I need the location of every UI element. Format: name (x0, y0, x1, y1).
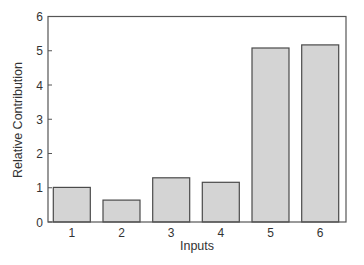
y-tick-label: 0 (36, 216, 43, 230)
y-tick-label: 1 (36, 181, 43, 195)
bar-input-1 (53, 187, 90, 222)
bar-input-2 (103, 200, 140, 222)
x-tick-label: 4 (217, 226, 224, 240)
x-axis-label: Inputs (180, 239, 214, 253)
x-tick-label: 6 (317, 226, 324, 240)
bar-input-5 (252, 48, 289, 222)
y-tick-label: 6 (36, 10, 43, 24)
bar-input-3 (153, 178, 190, 222)
x-tick-label: 1 (68, 226, 75, 240)
bar-input-4 (202, 182, 239, 222)
y-axis-ticks: 0123456 (36, 10, 52, 230)
x-tick-label: 2 (118, 226, 125, 240)
y-axis-label: Relative Contribution (11, 62, 25, 178)
x-tick-label: 3 (168, 226, 175, 240)
x-axis-ticks: 123456 (68, 226, 323, 240)
y-tick-label: 5 (36, 44, 43, 58)
bars-group (53, 45, 338, 222)
bar-input-6 (302, 45, 339, 222)
x-tick-label: 5 (267, 226, 274, 240)
bar-chart: 0123456 123456 Relative Contribution Inp… (0, 0, 364, 265)
y-tick-label: 3 (36, 113, 43, 127)
y-tick-label: 4 (36, 79, 43, 93)
y-tick-label: 2 (36, 147, 43, 161)
